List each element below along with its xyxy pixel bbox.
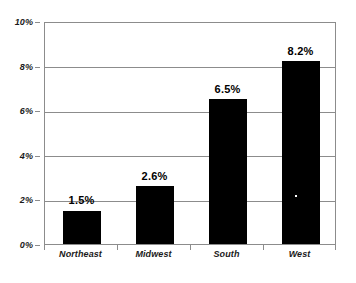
bar-midwest[interactable] — [136, 186, 174, 244]
y-tick-label: 2% — [20, 195, 33, 205]
x-axis: Northeast Midwest South West — [44, 249, 336, 269]
y-tick-mark — [35, 200, 40, 201]
bar-south[interactable] — [209, 99, 247, 244]
y-tick-mark — [35, 22, 40, 23]
y-axis: 10% 8% 6% 4% 2% 0% — [0, 0, 40, 283]
bar-slot-south: 6.5% — [191, 23, 264, 244]
y-tick-mark — [35, 156, 40, 157]
bar-chart: 10% 8% 6% 4% 2% 0% 1.5% 2.6% — [0, 0, 356, 283]
bar-value-label-midwest: 2.6% — [142, 170, 168, 182]
bar-value-label-northeast: 1.5% — [69, 194, 95, 206]
y-tick-mark — [35, 245, 40, 246]
x-tick-label-midwest: Midwest — [117, 249, 190, 259]
y-tick-label: 0% — [20, 240, 33, 250]
x-tick-label-west: West — [263, 249, 336, 259]
y-tick-label: 10% — [15, 17, 33, 27]
x-tick-label-south: South — [190, 249, 263, 259]
y-tick-label: 6% — [20, 106, 33, 116]
bars-layer: 1.5% 2.6% 6.5% 8.2% — [45, 23, 335, 244]
y-tick-label: 4% — [20, 151, 33, 161]
bar-west[interactable] — [282, 61, 320, 244]
y-tick-mark — [35, 111, 40, 112]
bar-value-label-west: 8.2% — [288, 45, 314, 57]
x-tick-label-northeast: Northeast — [44, 249, 117, 259]
y-tick-mark — [35, 67, 40, 68]
bar-slot-west: 8.2% — [264, 23, 337, 244]
bar-northeast[interactable] — [63, 211, 101, 244]
y-tick-label: 8% — [20, 62, 33, 72]
bar-artifact-speck — [295, 195, 297, 197]
bar-value-label-south: 6.5% — [215, 83, 241, 95]
bar-slot-northeast: 1.5% — [45, 23, 118, 244]
plot-area: 1.5% 2.6% 6.5% 8.2% — [44, 22, 336, 245]
bar-slot-midwest: 2.6% — [118, 23, 191, 244]
